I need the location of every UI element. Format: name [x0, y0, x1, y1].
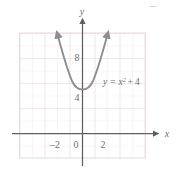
x-tick-label-zero: 0 — [74, 139, 79, 150]
equation-equals: = — [110, 77, 115, 87]
scan-artifact — [150, 6, 156, 7]
equation-constant: 4 — [135, 77, 140, 87]
coordinate-plane-svg: –2 0 2 4 8 x y y=x2+4 — [0, 0, 181, 174]
equation-lhs: y — [102, 77, 108, 87]
x-tick-label-2: 2 — [101, 139, 106, 150]
equation-plus: + — [128, 77, 133, 87]
x-axis-label: x — [164, 128, 170, 139]
y-axis-label: y — [79, 6, 85, 17]
x-tick-label-neg2: –2 — [49, 139, 60, 150]
graph-figure: –2 0 2 4 8 x y y=x2+4 — [0, 0, 181, 174]
y-tick-label-4: 4 — [75, 92, 80, 103]
y-tick-label-8: 8 — [75, 52, 80, 63]
